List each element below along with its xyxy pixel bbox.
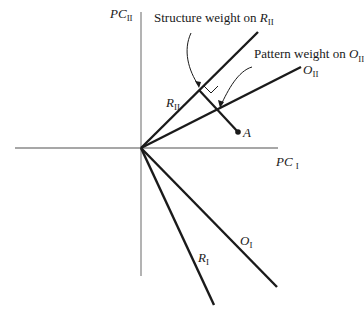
right-angle-marker <box>204 86 218 93</box>
point-a-label: A <box>242 125 251 140</box>
pc2-label: PCII <box>109 6 133 23</box>
r2-label: RII <box>165 95 180 112</box>
structure-arrowhead <box>195 81 201 88</box>
projection-line <box>199 90 238 132</box>
r1-label: RI <box>197 250 209 267</box>
o2-label: OII <box>303 62 318 79</box>
pc1-label: PCI <box>275 154 299 171</box>
r1-vector <box>141 148 214 305</box>
pattern-weight-text: Pattern weight on OII <box>254 46 364 64</box>
pattern-weight-prefix: Pattern weight on <box>254 46 349 61</box>
o2-vector <box>141 67 301 148</box>
point-a <box>235 129 241 135</box>
structure-weight-label: Structure weight on RII <box>154 10 274 27</box>
structure-leader <box>187 33 199 86</box>
pattern-weight-var: O <box>349 46 358 61</box>
pattern-weight-sub: II <box>358 54 364 64</box>
o1-label: OI <box>240 233 252 250</box>
o1-vector <box>141 148 277 287</box>
